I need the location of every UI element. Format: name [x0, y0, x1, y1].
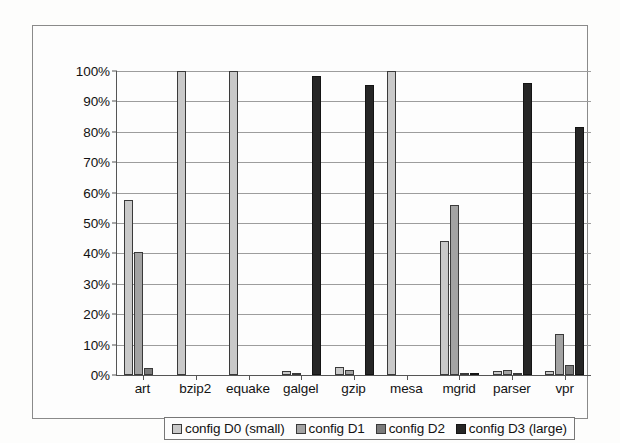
legend-label: config D2 [389, 421, 445, 436]
bar-group [170, 71, 223, 375]
legend-entry[interactable]: config D2 [376, 421, 445, 436]
bar [282, 371, 291, 375]
x-axis-tick-label: gzip [327, 381, 380, 396]
bar [565, 365, 574, 375]
legend-entry[interactable]: config D1 [296, 421, 365, 436]
bar-group [117, 71, 170, 375]
x-axis-tick-label: mesa [380, 381, 433, 396]
x-axis-tick-label: galgel [274, 381, 327, 396]
bar-group [538, 71, 591, 375]
bar [124, 200, 133, 375]
chart-legend: config D0 (small)config D1config D2confi… [164, 417, 575, 440]
plot-area: 100%90%80%70%60%50%40%30%20%10%0% [116, 71, 591, 376]
bar-group [486, 71, 539, 375]
bar [575, 127, 584, 375]
x-axis-tick-mark [407, 375, 408, 380]
legend-swatch-icon [172, 424, 182, 434]
x-axis-tick-label: equake [222, 381, 275, 396]
bar-group [380, 71, 433, 375]
bar [503, 370, 512, 375]
y-axis-tick-label: 40% [83, 246, 110, 261]
bar-group [328, 71, 381, 375]
bars-layer [117, 71, 591, 375]
bar-group [222, 71, 275, 375]
bar [365, 85, 374, 375]
chart-figure: 100%90%80%70%60%50%40%30%20%10%0% artbzi… [0, 0, 620, 443]
y-axis-tick-label: 10% [83, 337, 110, 352]
bar [523, 83, 532, 375]
legend-entry[interactable]: config D0 (small) [172, 421, 285, 436]
bar [513, 373, 522, 375]
bar [177, 71, 186, 375]
x-axis-tick-label: mgrid [433, 381, 486, 396]
bar-group [275, 71, 328, 375]
bar [555, 334, 564, 375]
legend-swatch-icon [456, 424, 466, 434]
legend-entry[interactable]: config D3 (large) [456, 421, 567, 436]
y-axis-tick-label: 70% [83, 155, 110, 170]
y-axis-tick-label: 100% [76, 64, 110, 79]
x-axis-tick-mark [354, 375, 355, 380]
x-axis-labels: artbzip2equakegalgelgzipmesamgridparserv… [116, 381, 591, 396]
bar [144, 368, 153, 375]
x-axis-tick-label: art [116, 381, 169, 396]
y-axis-tick-label: 30% [83, 276, 110, 291]
bar [312, 76, 321, 375]
x-axis-tick-mark [249, 375, 250, 380]
bar [440, 241, 449, 375]
bar [345, 370, 354, 375]
legend-label: config D0 (small) [185, 421, 285, 436]
x-axis-tick-mark [301, 375, 302, 380]
bar [229, 71, 238, 375]
legend-swatch-icon [376, 424, 386, 434]
legend-label: config D1 [309, 421, 365, 436]
y-axis-tick-label: 60% [83, 185, 110, 200]
y-axis-tick-label: 20% [83, 307, 110, 322]
legend-label: config D3 (large) [469, 421, 567, 436]
x-axis-tick-label: vpr [538, 381, 591, 396]
legend-swatch-icon [296, 424, 306, 434]
bar [134, 252, 143, 375]
bar [387, 71, 396, 375]
x-axis-tick-mark [512, 375, 513, 380]
x-axis-tick-mark [143, 375, 144, 380]
bar [470, 373, 479, 375]
bar [493, 371, 502, 375]
y-axis-tick-label: 50% [83, 216, 110, 231]
y-axis-tick-label: 80% [83, 124, 110, 139]
chart-frame: 100%90%80%70%60%50%40%30%20%10%0% artbzi… [32, 25, 588, 419]
x-axis-tick-mark [196, 375, 197, 380]
bar-group [433, 71, 486, 375]
y-axis-tick-label: 0% [91, 368, 110, 383]
bar [335, 367, 344, 375]
bar [450, 205, 459, 375]
x-axis-tick-mark [565, 375, 566, 380]
bar [545, 371, 554, 375]
x-axis-tick-mark [459, 375, 460, 380]
bar [292, 373, 301, 375]
y-axis-tick-label: 90% [83, 94, 110, 109]
x-axis-tick-label: bzip2 [169, 381, 222, 396]
x-axis-tick-label: parser [485, 381, 538, 396]
bar [460, 373, 469, 375]
